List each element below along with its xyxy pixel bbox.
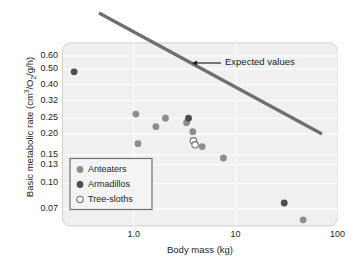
data-point-anteaters	[199, 143, 206, 150]
y-axis-tick-label: 0.15	[24, 149, 58, 159]
data-point-anteaters	[135, 140, 142, 147]
x-axis-tick-label: 1.0	[114, 229, 154, 239]
data-point-armadillos	[71, 68, 78, 75]
y-axis-tick-label: 0.25	[24, 112, 58, 122]
legend-marker-tree-sloths	[77, 196, 83, 202]
legend-marker-armadillos	[77, 181, 84, 188]
x-axis-tick-label: 100	[318, 229, 358, 239]
data-point-anteaters	[300, 216, 307, 223]
data-point-anteaters	[152, 123, 159, 130]
y-axis-tick-label: 0.13	[24, 159, 58, 169]
data-point-anteaters	[189, 128, 196, 135]
legend-label-armadillos: Armadillos	[88, 179, 130, 189]
legend-marker-anteaters	[77, 166, 84, 173]
data-point-armadillos	[185, 115, 192, 122]
data-point-anteaters	[220, 155, 227, 162]
data-point-armadillos	[281, 200, 288, 207]
data-point-anteaters	[162, 115, 169, 122]
legend-label-anteaters: Anteaters	[88, 164, 127, 174]
y-axis-tick-label: 0.10	[24, 177, 58, 187]
y-axis-tick-label: 0.07	[24, 203, 58, 213]
y-axis-tick-label: 0.20	[24, 128, 58, 138]
y-axis-tick-label: 0.40	[24, 79, 58, 89]
data-point-tree-sloths	[192, 142, 198, 148]
y-axis-tick-label: 0.50	[24, 63, 58, 73]
y-axis-tick-label: 0.32	[24, 95, 58, 105]
legend-label-tree-sloths: Tree-sloths	[88, 194, 133, 204]
y-axis-tick-label: 0.60	[24, 50, 58, 60]
expected-values-annotation-label: Expected values	[225, 56, 295, 67]
scatter-chart-figure: Basic metabolic rate (cm3/O2/g/h) Body m…	[0, 0, 362, 265]
x-axis-tick-label: 10	[216, 229, 256, 239]
data-point-anteaters	[132, 111, 139, 118]
